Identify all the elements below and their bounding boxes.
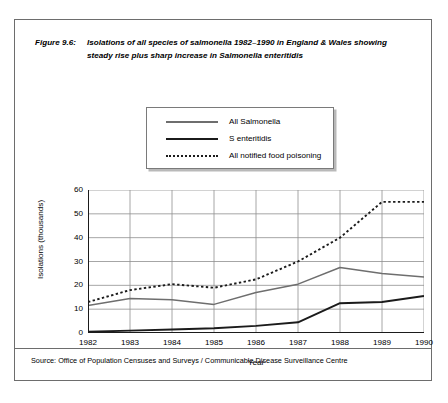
figure-number-label: Figure 9.6: bbox=[35, 37, 87, 50]
solid-gray-line-icon bbox=[166, 121, 218, 123]
x-axis-tick-label: 1984 bbox=[155, 338, 189, 347]
y-axis-tick-label: 60 bbox=[67, 186, 83, 194]
legend-item-all-notified-food-poisoning: All notified food poisoning bbox=[157, 149, 329, 163]
source-note: Source: Office of Population Censuses an… bbox=[31, 356, 348, 365]
y-axis-tick-label: 40 bbox=[67, 234, 83, 242]
y-axis-title: Isolations (thousands) bbox=[36, 185, 45, 295]
figure-card: Figure 9.6:Isolations of all species of … bbox=[14, 19, 432, 381]
source-divider bbox=[15, 348, 431, 349]
figure-title: Figure 9.6:Isolations of all species of … bbox=[35, 37, 415, 62]
y-axis-tick-labels: 6050403020100 bbox=[65, 190, 83, 333]
y-axis-tick-label: 0 bbox=[67, 329, 83, 337]
x-axis-tick-label: 1987 bbox=[281, 338, 315, 347]
x-axis-tick-label: 1985 bbox=[197, 338, 231, 347]
y-axis-tick-label: 10 bbox=[67, 305, 83, 313]
x-axis-tick-label: 1983 bbox=[113, 338, 147, 347]
plot-frame bbox=[88, 190, 424, 333]
plot-area bbox=[88, 190, 424, 333]
dotted-line-icon bbox=[166, 155, 218, 157]
y-axis-tick-label: 30 bbox=[67, 258, 83, 266]
x-axis-tick-label: 1986 bbox=[239, 338, 273, 347]
x-axis-tick-label: 1982 bbox=[71, 338, 105, 347]
chart-legend: All Salmonella S enteritidis All notifie… bbox=[146, 107, 334, 169]
legend-item-label: All Salmonella bbox=[229, 115, 280, 128]
y-axis-tick-label: 20 bbox=[67, 281, 83, 289]
y-axis-tick-label: 50 bbox=[67, 210, 83, 218]
legend-item-label: All notified food poisoning bbox=[229, 149, 321, 162]
x-axis-tick-label: 1990 bbox=[407, 338, 441, 347]
figure-title-text: Isolations of all species of salmonella … bbox=[87, 37, 403, 62]
x-axis-tick-label: 1989 bbox=[365, 338, 399, 347]
x-axis-tick-label: 1988 bbox=[323, 338, 357, 347]
legend-item-all-salmonella: All Salmonella bbox=[157, 115, 329, 129]
solid-black-line-icon bbox=[166, 138, 218, 140]
legend-item-label: S enteritidis bbox=[229, 132, 271, 145]
legend-item-s-enteritidis: S enteritidis bbox=[157, 132, 329, 146]
